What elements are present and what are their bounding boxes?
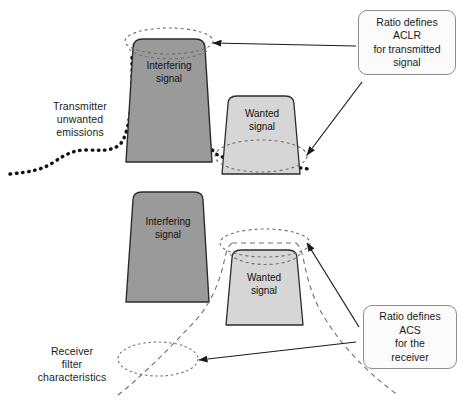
callout-aclr: Ratio defines ACLR for transmitted signa… [358,10,456,75]
top-interfering-signal-shape [126,39,212,162]
top-wanted-signal-label: Wanted signal [228,108,296,133]
acs-arrow-upper [307,243,359,327]
top-interfering-signal-label: Interfering signal [131,60,207,85]
receiver-filter-characteristics-label: Receiver filter characteristics [22,345,122,384]
acs-skirt-ellipse [118,342,198,376]
acs-arrow-lower [199,342,356,360]
transmitter-unwanted-emissions-label: Transmitter unwanted emissions [34,100,126,139]
aclr-arrow-upper [213,43,356,46]
diagram-canvas: Interfering signal Wanted signal Transmi… [0,0,462,405]
callout-acs: Ratio defines ACS for the receiver [363,305,457,369]
bottom-interfering-signal-label: Interfering signal [130,216,206,241]
aclr-arrow-lower [307,82,362,155]
bottom-interfering-signal-shape [126,192,209,302]
bottom-wanted-signal-label: Wanted signal [231,272,297,297]
